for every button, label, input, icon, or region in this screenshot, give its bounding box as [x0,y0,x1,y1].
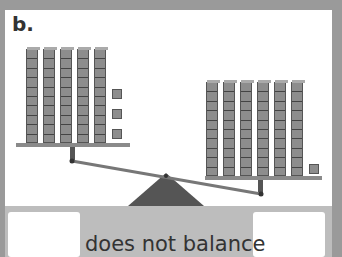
balance-status: does not balance [85,232,265,256]
left-answer-box[interactable] [8,212,80,257]
